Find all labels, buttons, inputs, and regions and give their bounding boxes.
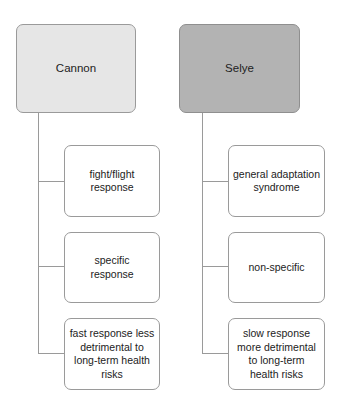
selye-child-label-1: general adaptation syndrome — [233, 168, 320, 195]
selye-child-label-2: non-specific — [248, 261, 304, 275]
cannon-connector-3 — [38, 353, 64, 354]
selye-connector-2 — [202, 266, 228, 267]
cannon-child-node-1: fight/flight response — [64, 145, 160, 217]
selye-connector-3 — [202, 353, 228, 354]
cannon-child-label-1: fight/flight response — [69, 168, 155, 195]
selye-child-node-2: non-specific — [228, 232, 325, 303]
cannon-root-node: Cannon — [16, 24, 136, 113]
cannon-child-node-3: fast response less detrimental to long-t… — [64, 318, 160, 390]
selye-connector-1 — [202, 181, 228, 182]
selye-child-label-3: slow response more detrimental to long-t… — [233, 327, 320, 381]
selye-root-node: Selye — [179, 24, 300, 113]
cannon-trunk-line — [38, 113, 39, 353]
selye-child-node-3: slow response more detrimental to long-t… — [228, 318, 325, 390]
cannon-child-label-3: fast response less detrimental to long-t… — [69, 327, 155, 381]
selye-trunk-line — [202, 113, 203, 353]
cannon-connector-1 — [38, 181, 64, 182]
selye-root-label: Selye — [225, 62, 254, 76]
cannon-child-node-2: specific response — [64, 232, 160, 303]
cannon-child-label-2: specific response — [69, 254, 155, 281]
cannon-root-label: Cannon — [56, 62, 96, 76]
cannon-connector-2 — [38, 266, 64, 267]
selye-child-node-1: general adaptation syndrome — [228, 145, 325, 217]
